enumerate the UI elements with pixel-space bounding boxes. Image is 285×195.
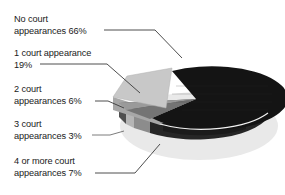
callout-no-court-appearances-line1: No court (14, 14, 48, 24)
callout-no-court-appearances: No court appearances 66% (14, 14, 87, 36)
callout-1-court-appearance: 1 court appearance 19% (14, 48, 94, 70)
callout-4-or-more-court-appearances-line2: appearances 7% (14, 168, 82, 178)
callout-3-court-appearances-line1: 3 court (14, 119, 42, 129)
pie-graphic (113, 66, 285, 160)
callout-4-or-more-court-appearances: 4 or more court appearances 7% (14, 156, 82, 178)
callout-2-court-appearances: 2 court appearances 6% (14, 84, 82, 106)
callout-no-court-appearances-line2: appearances 66% (14, 26, 87, 36)
callout-2-court-appearances-line2: appearances 6% (14, 96, 82, 106)
callout-labels: No court appearances 66% 1 court appeara… (14, 14, 94, 178)
callout-1-court-appearance-line1: 1 court appearance (14, 48, 91, 58)
callout-4-or-more-court-appearances-line1: 4 or more court (14, 156, 75, 166)
leader-line-no-court-appearances (104, 30, 182, 58)
pie-chart-svg: No court appearances 66% 1 court appeara… (0, 0, 285, 195)
callout-1-court-appearance-line2: 19% (14, 60, 32, 70)
callout-3-court-appearances-line2: appearances 3% (14, 131, 82, 141)
pie-chart-figure: No court appearances 66% 1 court appeara… (0, 0, 285, 195)
callout-3-court-appearances: 3 court appearances 3% (14, 119, 82, 141)
callout-2-court-appearances-line1: 2 court (14, 84, 42, 94)
leader-line-3-court-appearances (92, 131, 124, 135)
